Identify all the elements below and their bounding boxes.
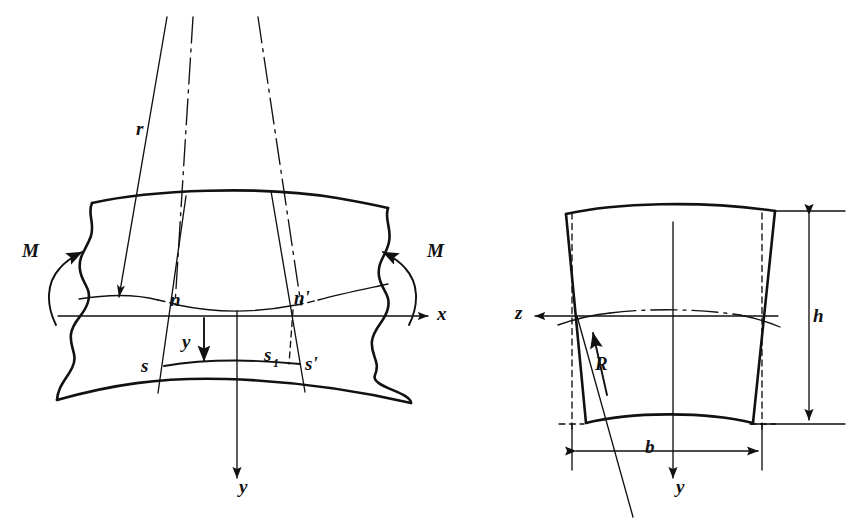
beam-left-break-edge	[57, 203, 92, 400]
cross-section-top-edge	[566, 204, 775, 214]
cross-section-bottom-edge	[586, 414, 753, 423]
beam-bottom-edge	[57, 379, 411, 403]
element-right-face-construction	[258, 17, 301, 305]
label-point-s1-subscript: 1	[273, 356, 279, 370]
label-point-n-prime: n'	[294, 287, 310, 308]
cross-section-left-edge	[566, 214, 586, 423]
label-point-s-prime: s'	[304, 353, 318, 374]
moment-arrow-left	[49, 252, 82, 325]
beam-right-break-edge	[372, 208, 411, 403]
dimension-b	[572, 424, 762, 470]
label-axis-z: z	[514, 302, 523, 323]
cross-section-neutral-curve-left	[558, 313, 610, 325]
label-width-b: b	[645, 436, 655, 457]
label-radius-R: R	[594, 353, 608, 374]
left-view-longitudinal-section: M M r x y y n n' s s 1 s'	[21, 17, 447, 497]
label-radius-r: r	[136, 118, 144, 139]
cross-section-neutral-curve-mid-dash	[610, 310, 740, 315]
label-moment-left: M	[21, 240, 40, 261]
figure-root: M M r x y y n n' s s 1 s'	[0, 0, 851, 522]
right-view-cross-section: z y R h b	[514, 204, 845, 517]
cross-section-neutral-curve-right	[740, 315, 780, 327]
label-axis-y-right: y	[674, 476, 685, 497]
fibre-arc-s-sprime	[164, 361, 300, 366]
neutral-surface-curve-mid	[178, 305, 296, 311]
element-left-face-construction	[175, 17, 193, 305]
label-height-h: h	[813, 305, 824, 326]
label-point-s1-base: s	[263, 344, 271, 365]
label-distance-y: y	[180, 331, 191, 352]
neutral-surface-curve-solid-right	[318, 284, 388, 300]
label-point-s1: s 1	[263, 344, 279, 370]
label-moment-right: M	[426, 240, 445, 261]
neutral-surface-curve-solid	[79, 295, 158, 300]
cross-section-right-edge	[753, 211, 775, 423]
label-axis-y-left: y	[237, 476, 248, 497]
technical-diagram: M M r x y y n n' s s 1 s'	[0, 0, 851, 522]
moment-arrow-right	[383, 252, 416, 325]
label-axis-x: x	[436, 303, 447, 324]
radius-line-r	[119, 17, 167, 297]
label-point-s: s	[140, 355, 148, 376]
label-point-n: n	[170, 289, 181, 310]
